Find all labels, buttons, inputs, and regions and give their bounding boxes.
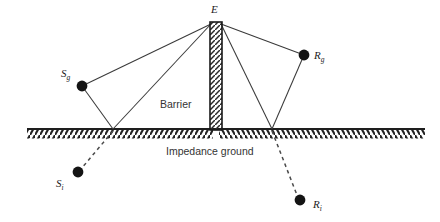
barrier-body [210,22,222,130]
node-source-ground [77,81,88,92]
ray-source-to-ground [82,86,113,129]
ground-hatch-left [27,130,213,139]
node-receiver-image [295,195,306,206]
solid-ray-group [82,24,304,129]
ground-group [27,129,425,139]
dashed-receiver-image [272,131,297,195]
dashed-ray-group [81,131,297,195]
barrier-diffraction-diagram [0,0,440,222]
node-receiver-ground [299,50,310,61]
ray-ground-to-receiver [272,55,304,129]
node-source-image [73,167,84,178]
ray-ground-to-edge [113,24,211,129]
ray-source-to-edge [82,24,211,86]
barrier-group [210,22,222,130]
ground-hatch-right [219,130,425,139]
figure-canvas: E Sg Rg Si Ri Barrier Impedance ground [0,0,440,222]
